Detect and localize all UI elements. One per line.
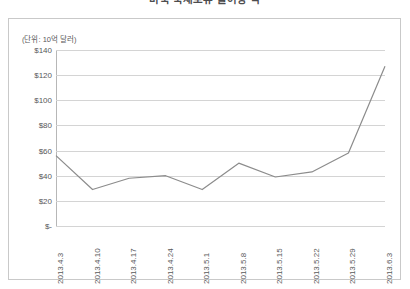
data-series-line (56, 50, 385, 226)
x-axis-tick-label: 2013.5.1 (202, 228, 211, 286)
plot-area (56, 50, 385, 226)
x-axis-tick-label-text: 2013.4.24 (166, 226, 175, 284)
x-axis-tick-label-text: 2013.5.1 (202, 226, 211, 284)
y-axis-tick-label: $120 (4, 71, 52, 80)
x-axis-tick-label-text: 2013.4.17 (129, 226, 138, 284)
gridline (56, 226, 385, 227)
y-axis-tick-label: $20 (4, 196, 52, 205)
x-axis-tick-label-text: 2013.5.15 (275, 226, 284, 284)
x-axis-tick-label-text: 2013.5.29 (348, 226, 357, 284)
unit-label: (단위: 10억 달러) (22, 33, 77, 44)
x-axis-tick-label-text: 2013.4.10 (93, 226, 102, 284)
x-axis-tick-label: 2013.4.17 (129, 228, 138, 286)
x-axis-tick-label: 2013.6.3 (385, 228, 394, 286)
series-polyline (56, 66, 385, 189)
y-axis-tick-label: $40 (4, 171, 52, 180)
y-axis-tick-label: $80 (4, 121, 52, 130)
x-axis-tick-label-text: 2013.5.22 (312, 226, 321, 284)
y-axis-tick-label: $- (4, 222, 52, 231)
y-axis-tick-label: $60 (4, 146, 52, 155)
y-axis-tick-labels: $140$120$100$80$60$40$20$- (0, 50, 52, 226)
x-axis-tick-label: 2013.5.8 (239, 228, 248, 286)
x-axis-tick-label: 2013.5.22 (312, 228, 321, 286)
x-axis-tick-label: 2013.4.10 (93, 228, 102, 286)
x-axis-tick-label: 2013.4.3 (56, 228, 65, 286)
x-axis-tick-label: 2013.5.29 (348, 228, 357, 286)
x-axis-tick-label-text: 2013.6.3 (385, 226, 394, 284)
x-axis-tick-label-text: 2013.5.8 (239, 226, 248, 284)
x-axis-tick-label: 2013.4.24 (166, 228, 175, 286)
y-axis-tick-label: $140 (4, 46, 52, 55)
x-axis-tick-label: 2013.5.15 (275, 228, 284, 286)
x-axis-tick-labels: 2013.4.32013.4.102013.4.172013.4.242013.… (56, 228, 385, 286)
x-axis-tick-label-text: 2013.4.3 (56, 226, 65, 284)
chart-title: 미국 국채보유 불어랑 액 (0, 0, 410, 5)
y-axis-tick-label: $100 (4, 96, 52, 105)
